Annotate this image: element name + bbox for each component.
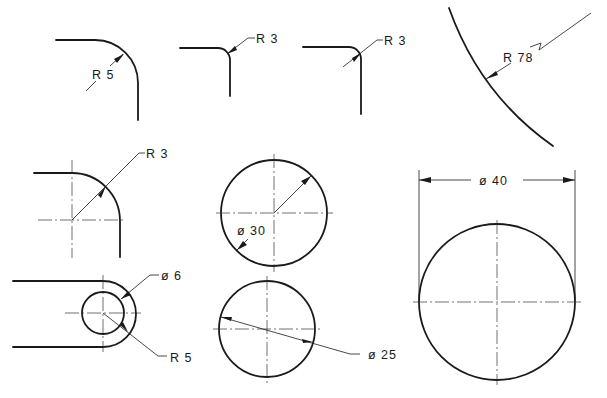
slot-with-hole: ø 6 R 5 — [13, 269, 192, 365]
arrow-icon — [302, 339, 313, 343]
dimension-label: R 78 — [503, 51, 533, 65]
arrow-icon — [98, 186, 106, 198]
arrow-icon — [227, 46, 237, 54]
circle-d30: ø 30 — [216, 154, 333, 272]
dimension-label: ø 30 — [237, 224, 266, 238]
arrow-icon — [563, 177, 575, 183]
circle-d40: ø 40 — [413, 170, 582, 385]
arrow-icon — [114, 54, 124, 63]
dimension-label: R 5 — [92, 68, 114, 82]
fillet-r5-top: R 5 — [56, 40, 138, 120]
circle-d25: ø 25 — [213, 276, 397, 383]
dimensioning-drawing: R 5 R 3 R 3 R 78 R 3 — [0, 0, 607, 398]
dimension-label: R 3 — [384, 34, 406, 48]
dimension-label: ø 25 — [368, 348, 397, 362]
dimension-label: ø 40 — [479, 174, 508, 188]
arrow-icon — [301, 176, 311, 185]
fillet-r3-top-b: R 3 — [303, 34, 406, 114]
arrow-icon — [221, 317, 232, 321]
arrow-icon — [237, 241, 247, 250]
dimension-label: R 5 — [170, 351, 192, 365]
fillet-r3-mid: R 3 — [34, 147, 168, 258]
dimension-label: ø 6 — [161, 269, 182, 283]
arc-r78: R 78 — [449, 8, 591, 146]
dimension-label: R 3 — [146, 147, 168, 161]
arrow-icon — [352, 53, 361, 62]
dimension-label: R 3 — [256, 32, 278, 46]
fillet-r3-top-a: R 3 — [180, 32, 278, 96]
arrow-icon — [486, 71, 498, 79]
arrow-icon — [419, 177, 431, 183]
